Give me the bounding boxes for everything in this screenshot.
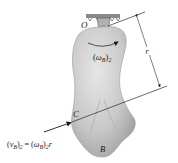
pivot-label: O	[81, 20, 88, 30]
rigid-body-diagram: r (ωB)2 O C B (vB)2=(ωB)2r	[0, 0, 178, 163]
velocity-arrow	[44, 123, 71, 133]
velocity-equation: (vB)2=(ωB)2r	[7, 140, 53, 150]
point-b-label: B	[100, 144, 105, 154]
point-c-label: C	[73, 109, 79, 119]
